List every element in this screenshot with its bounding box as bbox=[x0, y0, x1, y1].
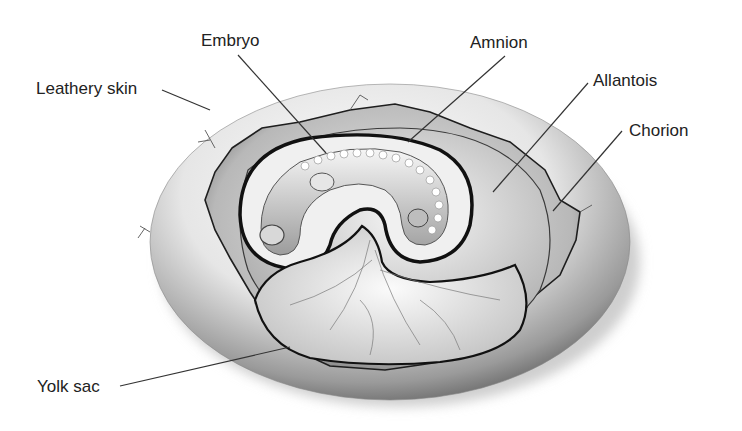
embryo-tail-curl bbox=[408, 209, 428, 227]
embryo-limb bbox=[310, 173, 334, 191]
label-yolk-sac: Yolk sac bbox=[37, 378, 100, 395]
label-chorion: Chorion bbox=[629, 122, 689, 139]
label-allantois: Allantois bbox=[593, 72, 657, 89]
label-leathery-skin: Leathery skin bbox=[36, 80, 137, 97]
label-embryo: Embryo bbox=[201, 32, 260, 49]
embryo-eye bbox=[260, 225, 284, 245]
amniotic-egg-diagram bbox=[0, 0, 742, 431]
label-amnion: Amnion bbox=[470, 34, 528, 51]
leader-line-leathery-skin bbox=[162, 90, 210, 110]
